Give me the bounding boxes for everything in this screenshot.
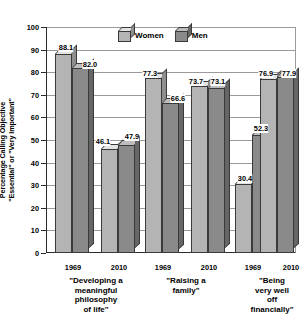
- bar-face: [162, 103, 179, 254]
- y-tick-70: [41, 95, 46, 96]
- x-year-label-5: 2010: [283, 263, 299, 272]
- bar-men-1969-philosophy: [72, 68, 89, 253]
- y-tick-80: [41, 72, 46, 73]
- y-axis-line: [46, 27, 47, 253]
- value-label-men-1969-family: 66.6: [170, 94, 185, 103]
- bar-face: [72, 68, 89, 253]
- value-label-women-2010-philosophy: 46.1: [95, 137, 110, 146]
- bar-side-face: [225, 78, 230, 248]
- y-tick-label-20: 20: [31, 203, 39, 212]
- y-tick-0: [41, 253, 46, 254]
- x-category-label-family: "Raising a family": [166, 276, 205, 295]
- bar-side-face: [179, 93, 184, 248]
- y-tick-50: [41, 140, 46, 141]
- y-tick-40: [41, 163, 46, 164]
- bar-face: [235, 184, 252, 253]
- bar-face: [118, 145, 135, 253]
- bar-men-2010-philosophy: [118, 145, 135, 253]
- y-axis-title: Percentage Calling Objective "Essential"…: [0, 42, 17, 258]
- gridline-90: [46, 50, 296, 51]
- bar-women-2010-family: [191, 86, 208, 253]
- value-label-women-1969-family: 77.3: [142, 69, 157, 78]
- bar-women-1969-philosophy: [55, 54, 72, 253]
- value-label-women-2010-family: 73.7: [188, 77, 203, 86]
- bar-men-2010-family: [208, 88, 225, 253]
- y-tick-label-90: 90: [31, 45, 39, 54]
- y-tick-label-40: 40: [31, 158, 39, 167]
- value-label-women-1969-financial: 30.4: [237, 174, 252, 183]
- bar-face: [277, 77, 294, 253]
- legend: Women Men: [118, 28, 208, 42]
- bar-face: [191, 86, 208, 253]
- legend-label-women: Women: [135, 31, 164, 40]
- legend-swatch-men-cube-icon: [175, 31, 188, 42]
- bar-face: [55, 54, 72, 253]
- y-tick-30: [41, 185, 46, 186]
- x-category-label-financial: "Being very well off financially": [251, 276, 294, 314]
- value-label-men-2010-philosophy: 47.9: [124, 132, 139, 141]
- plot-area: 100 90 80 70 60 50 40 30 20 10 0: [46, 27, 296, 253]
- bar-chart-figure: Percentage Calling Objective "Essential"…: [0, 0, 306, 323]
- value-label-men-2010-family: 73.1: [210, 77, 225, 86]
- y-tick-20: [41, 208, 46, 209]
- value-label-women-2010-financial: 76.9: [258, 69, 273, 78]
- bar-men-1969-family: [162, 103, 179, 254]
- y-tick-label-70: 70: [31, 90, 39, 99]
- legend-item-men: Men: [175, 28, 208, 42]
- y-tick-label-50: 50: [31, 136, 39, 145]
- y-tick-label-60: 60: [31, 113, 39, 122]
- x-category-label-philosophy: "Developing a meaningful philosophy of l…: [69, 276, 123, 314]
- value-label-women-1969-philosophy: 88.1: [58, 43, 73, 52]
- bar-face: [260, 79, 277, 253]
- bar-face: [101, 149, 118, 253]
- y-tick-60: [41, 117, 46, 118]
- bar-face: [145, 78, 162, 253]
- value-label-men-1969-financial: 52.3: [253, 124, 268, 133]
- bar-face: [208, 88, 225, 253]
- x-year-label-2: 1969: [155, 263, 171, 272]
- y-tick-label-80: 80: [31, 68, 39, 77]
- x-year-label-3: 2010: [201, 263, 217, 272]
- x-year-label-0: 1969: [65, 263, 81, 272]
- bar-women-1969-family: [145, 78, 162, 253]
- y-tick-100: [41, 27, 46, 28]
- value-label-men-2010-financial: 77.9: [281, 69, 296, 78]
- value-label-men-1969-philosophy: 82.0: [82, 60, 97, 69]
- bar-women-1969-financial: [235, 184, 252, 253]
- legend-label-men: Men: [192, 31, 208, 40]
- bar-side-face: [294, 67, 299, 248]
- y-tick-label-100: 100: [27, 23, 39, 32]
- y-tick-label-30: 30: [31, 181, 39, 190]
- bar-side-face: [89, 58, 94, 248]
- y-tick-90: [41, 50, 46, 51]
- x-year-label-4: 1969: [245, 263, 261, 272]
- bar-side-face: [135, 135, 140, 248]
- legend-item-women: Women: [118, 28, 164, 42]
- bar-women-2010-financial: [260, 79, 277, 253]
- x-year-label-1: 2010: [111, 263, 127, 272]
- y-tick-label-0: 0: [35, 249, 39, 258]
- bar-women-2010-philosophy: [101, 149, 118, 253]
- y-tick-label-10: 10: [31, 226, 39, 235]
- y-axis-title-line2: "Essential" or "Very Important": [8, 98, 17, 202]
- bar-men-2010-financial: [277, 77, 294, 253]
- legend-swatch-women-cube-icon: [118, 31, 131, 42]
- y-tick-10: [41, 230, 46, 231]
